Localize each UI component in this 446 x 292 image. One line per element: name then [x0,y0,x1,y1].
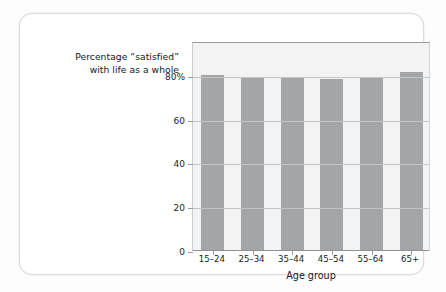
y-axis-label-80: 80% [165,72,185,82]
x-axis-title: Age group [192,270,430,281]
y-axis-tick-80 [188,77,193,78]
gridline-40 [193,164,429,165]
x-axis-label-65+: 65+ [401,254,419,264]
x-axis-label-25–34: 25–34 [238,254,264,264]
plot-inner: 020406080% [193,43,429,251]
x-axis-baseline [193,250,429,251]
y-axis-label-60: 60 [174,116,185,126]
gridline-20 [193,208,429,209]
x-axis-label-15–24: 15–24 [199,254,225,264]
y-axis-label-40: 40 [174,159,185,169]
x-axis-tick-labels: 15–2425–3435–4445–5455–6465+ [192,254,430,268]
x-axis-label-35–44: 35–44 [278,254,304,264]
y-axis-label-20: 20 [174,203,185,213]
y-axis-tick-20 [188,208,193,209]
chart-card: Percentage “satisfied” with life as a wh… [19,13,424,275]
y-axis-tick-60 [188,121,193,122]
chart-screenshot: Percentage “satisfied” with life as a wh… [0,0,446,292]
bar-65+ [400,72,423,251]
gridline-60 [193,121,429,122]
x-axis-label-55–64: 55–64 [357,254,383,264]
y-axis-tick-40 [188,164,193,165]
plot-area: 020406080% [192,42,430,251]
bars-layer [193,43,429,251]
y-axis-tick-0 [188,252,193,253]
chart-title-line-2: with life as a whole [47,64,179,77]
x-axis-label-45–54: 45–54 [318,254,344,264]
chart-title: Percentage “satisfied” with life as a wh… [47,51,179,76]
gridline-80 [193,77,429,78]
bar-15–24 [201,75,224,251]
y-axis-label-0: 0 [179,247,185,257]
chart-title-line-1: Percentage “satisfied” [47,51,179,64]
